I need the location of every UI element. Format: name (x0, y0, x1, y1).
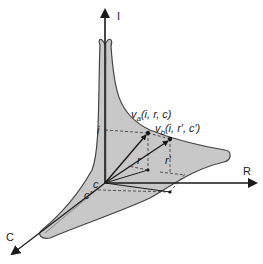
point-r (146, 168, 149, 171)
point-va (146, 131, 150, 135)
label-va: va(i, r, c) (131, 108, 172, 123)
label-r-prime: r′ (165, 154, 172, 166)
point-c (168, 190, 171, 193)
label-vb: vb(i, r′, c′) (155, 122, 201, 137)
label-c: c (93, 178, 99, 190)
surface-shape (40, 39, 231, 238)
c-axis-label: C (6, 231, 14, 243)
rgb-color-space-diagram: I R C i r r′ c c′ va(i, r, c) vb(i, r′, … (0, 0, 263, 264)
r-axis-label: R (243, 165, 251, 177)
label-c-prime: c′ (84, 189, 93, 201)
i-axis-label: I (117, 10, 120, 22)
point-vb (168, 137, 172, 141)
